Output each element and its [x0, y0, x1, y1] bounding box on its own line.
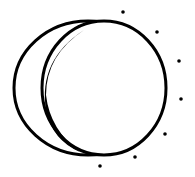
dot-icon [155, 30, 159, 34]
dot-icon [133, 155, 137, 159]
dot-icon [98, 164, 102, 168]
dot-icon [179, 97, 183, 101]
dot-icon [177, 59, 181, 63]
eclipse-moon-icon [0, 0, 195, 177]
dot-icon [163, 132, 167, 136]
dot-icon [121, 10, 125, 14]
